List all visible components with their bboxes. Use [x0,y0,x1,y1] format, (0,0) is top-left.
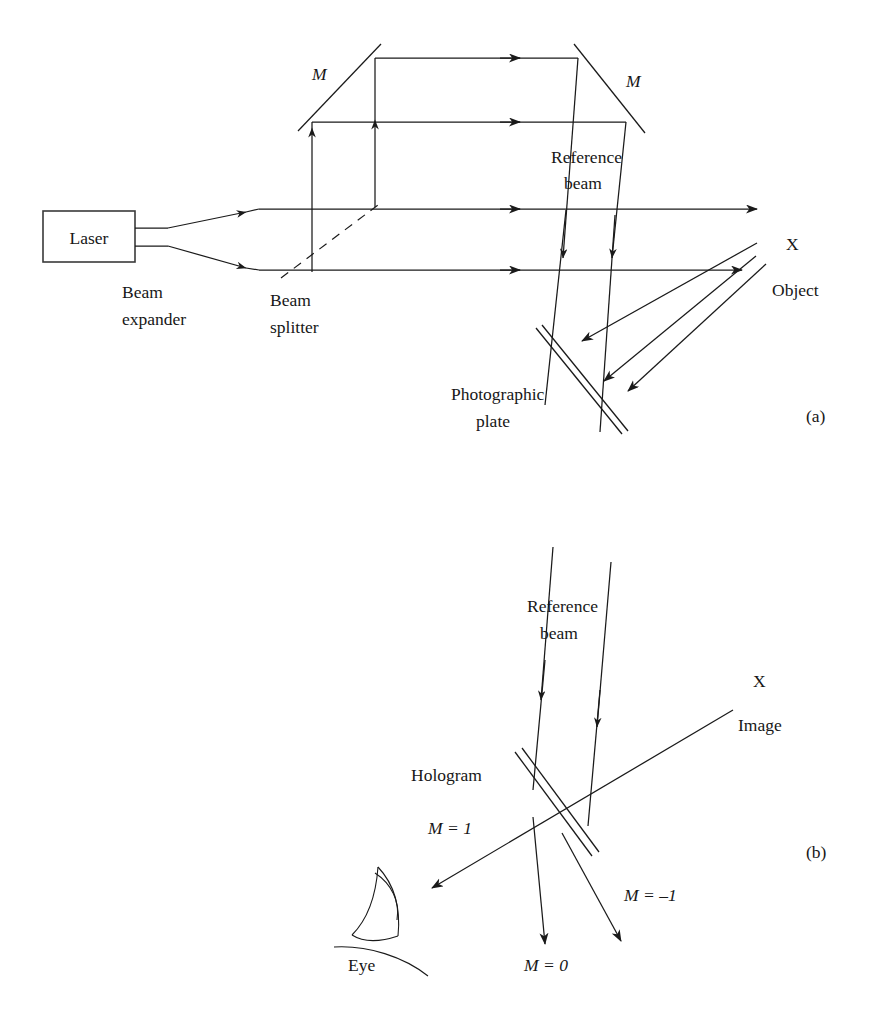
photographic-plate-label-line2: plate [476,411,510,431]
order-plus-one-ray [432,710,733,888]
hologram-back [522,748,599,852]
beam-splitter-label-line1: Beam [270,290,311,310]
eye-outline-back [352,935,398,941]
beam-expander-label-line1: Beam [122,282,163,302]
order-plus-one-label: M = 1 [427,818,472,838]
image-label: Image [738,715,782,735]
photographic-plate-back [542,325,628,431]
mirror-right-label: M [625,71,642,91]
image-marker-label: X [753,671,766,691]
object-label: Object [772,280,819,300]
object-scatter-ray-3 [628,264,766,391]
reference-beam-label-b-line2: beam [540,623,578,643]
holography-figure: Laser Beam expander Beam splitter M M Re… [0,0,876,1022]
b-reference-ray-right-lower [588,690,600,826]
object-scatter-ray-2 [604,256,756,381]
beam-expander-lower-ray [168,246,246,268]
eye-outline-upper [352,867,378,935]
figure-canvas: Laser Beam expander Beam splitter M M Re… [0,0,876,1022]
reference-beam-label-a-line1: Reference [551,147,622,167]
beam-expander-label-line2: expander [122,309,186,329]
hologram-front [515,752,592,856]
reference-ray-right-upper [612,122,626,258]
photographic-plate-front [536,328,622,434]
object-marker-label: X [786,234,799,254]
mirror-left-surface [298,44,381,131]
beam-expander-upper-ray [168,212,246,228]
beam-splitter-label-line2: splitter [270,317,319,337]
photographic-plate-label-line1: Photographic [451,384,545,404]
panel-b-labels: Reference beam Hologram X Image M = 1 M … [348,596,827,975]
order-minus-one-label: M = –1 [623,885,677,905]
order-zero-ray [533,817,545,944]
panel-a-graphics [43,44,766,434]
eye-lens-arc [375,873,398,920]
eye-label: Eye [348,955,375,975]
beam-expander-upper-tail [246,209,259,212]
reference-ray-left-lower [545,210,566,405]
beam-expander-lower-tail [246,268,259,270]
reference-beam-label-a-line2: beam [564,173,602,193]
panel-a-caption: (a) [806,406,826,426]
reference-beam-label-b-line1: Reference [527,596,598,616]
panel-b-caption: (b) [806,842,827,862]
order-minus-one-ray [562,833,621,941]
order-zero-label: M = 0 [523,955,568,975]
laser-label: Laser [70,228,109,248]
beam-splitter-surface [281,205,378,278]
mirror-left-label: M [311,64,328,84]
panel-a-labels: Laser Beam expander Beam splitter M M Re… [70,64,826,431]
hologram-label: Hologram [411,765,482,785]
object-scatter-ray-1 [582,243,757,341]
